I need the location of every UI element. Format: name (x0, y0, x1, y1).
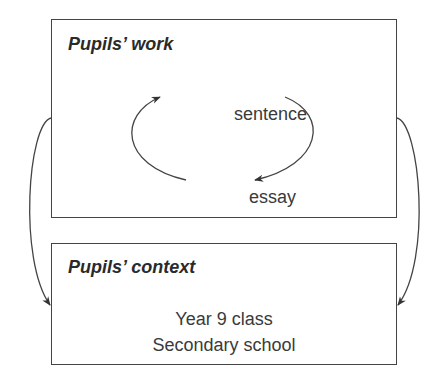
context-line-school: Secondary school (52, 332, 396, 358)
pupils-work-box: Pupils’ work sentence essay (51, 19, 397, 218)
pupils-context-title: Pupils’ context (68, 257, 195, 278)
right-connector-arrow (397, 118, 419, 305)
pupils-context-box: Pupils’ context Year 9 class Secondary s… (51, 243, 397, 365)
context-line-year: Year 9 class (52, 306, 396, 332)
essay-label: essay (249, 187, 296, 208)
sentence-label: sentence (234, 104, 307, 125)
left-connector-arrow (30, 118, 51, 305)
context-details: Year 9 class Secondary school (52, 306, 396, 358)
pupils-work-title: Pupils’ work (68, 34, 173, 55)
